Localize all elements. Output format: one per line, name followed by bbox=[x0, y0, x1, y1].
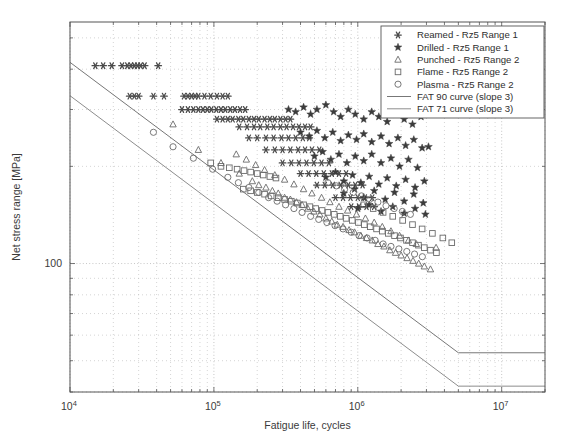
legend-label: Drilled - Rz5 Range 1 bbox=[417, 42, 509, 53]
figure: 104105106107100Fatigue life, cyclesNet s… bbox=[0, 0, 567, 448]
legend-label: FAT 90 curve (slope 3) bbox=[417, 91, 513, 102]
legend-label: Punched - Rz5 Range 2 bbox=[417, 54, 519, 65]
x-axis-label: Fatigue life, cycles bbox=[264, 419, 350, 431]
ytick-label-100: 100 bbox=[44, 257, 62, 269]
legend: Reamed - Rz5 Range 1Drilled - Rz5 Range … bbox=[381, 26, 544, 118]
legend-label: FAT 71 curve (slope 3) bbox=[417, 103, 513, 114]
legend-label: Reamed - Rz5 Range 1 bbox=[417, 29, 518, 40]
xtick-label: 104 bbox=[61, 399, 77, 413]
legend-label: Flame - Rz5 Range 2 bbox=[417, 66, 508, 77]
xtick-label: 107 bbox=[493, 399, 509, 413]
xtick-label: 106 bbox=[349, 399, 365, 413]
xtick-label: 105 bbox=[205, 399, 221, 413]
fatigue-scatter-chart: 104105106107100Fatigue life, cyclesNet s… bbox=[0, 0, 567, 448]
legend-label: Plasma - Rz5 Range 2 bbox=[417, 79, 514, 90]
y-axis-label: Net stress range [MPa] bbox=[10, 153, 22, 260]
